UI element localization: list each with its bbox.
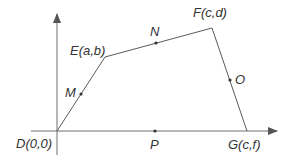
vertex-E-label: E(a,b) xyxy=(70,43,105,58)
midpoint-P-dot xyxy=(153,129,156,132)
vertex-F-label: F(c,d) xyxy=(193,5,227,20)
vertex-G-label: G(c,f) xyxy=(228,137,261,152)
midpoint-O-dot xyxy=(228,78,231,81)
midpoint-P-label: P xyxy=(150,137,159,152)
midpoint-M-dot xyxy=(79,92,82,95)
midpoint-N-dot xyxy=(154,41,157,44)
vertex-D-label: D(0,0) xyxy=(16,136,52,151)
midpoint-O-label: O xyxy=(235,72,245,87)
quadrilateral-diagram: D(0,0) E(a,b) F(c,d) G(c,f) M N O P xyxy=(0,0,292,159)
midpoint-M-label: M xyxy=(65,85,76,100)
midpoint-N-label: N xyxy=(150,24,160,39)
